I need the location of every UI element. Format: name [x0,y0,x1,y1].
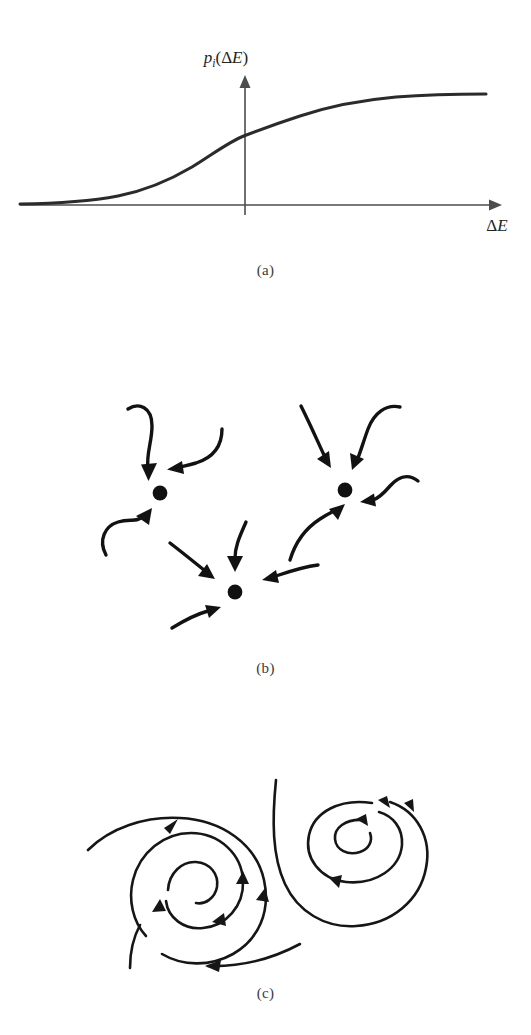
sigmoid-plot-svg: pi(ΔE) ΔE [0,30,531,280]
panel-b-caption: (b) [0,660,531,677]
flow-arrow-2c [360,477,418,507]
attractor-point-3 [228,585,243,600]
attractor-group-1 [103,406,222,555]
flow-arrow-1c [103,508,152,555]
y-axis [240,75,251,215]
panel-c-caption: (c) [0,985,531,1002]
flow-arrow-2b [350,406,400,470]
y-axis-arrowhead [240,75,251,88]
panel-c-spiral-attractors [0,740,531,990]
spiral-left-arrowhead-1 [164,819,178,834]
attractor-point-2 [338,483,353,498]
attractor-group-2 [290,406,418,560]
flow-arrow-2d [290,504,345,560]
y-axis-label-argument: (Δ [216,48,233,67]
y-axis-label-base: p [203,48,213,67]
spiral-right-arrowhead-4 [356,814,368,826]
spiral-right [274,780,428,926]
spiral-right-arrowhead-1 [378,796,390,808]
panel-b-point-attractors [0,380,531,680]
spiral-attractors-svg [0,740,531,990]
spiral-left-core-path [168,862,217,903]
spiral-left-mid-path [131,833,243,936]
spiral-left-outer-path [88,818,266,964]
flow-arrow-3d [172,605,221,628]
spiral-left [88,818,300,972]
flow-arrow-3b [170,543,215,579]
point-attractors-svg [0,380,531,680]
attractor-group-3 [170,522,318,628]
panel-a-sigmoid: pi(ΔE) ΔE [0,30,531,280]
x-axis-arrowhead [489,200,502,211]
flow-arrow-1a [128,406,157,481]
spiral-left-arrowhead-5 [152,899,166,912]
spiral-left-tail-path [208,944,300,966]
attractor-point-1 [153,486,168,501]
spiral-left-exit-path [130,925,140,968]
flow-arrow-1b [167,429,222,474]
y-axis-label: pi(ΔE) [203,48,248,69]
flow-arrow-3c [262,565,318,583]
flow-arrow-3a [227,522,246,572]
flow-arrow-2a [301,406,331,468]
spiral-left-arrowhead-2 [236,871,249,884]
spiral-right-core-path [335,820,371,853]
x-axis-label: ΔE [486,216,508,235]
sigmoid-curve [20,94,486,204]
figure-root: pi(ΔE) ΔE (a) [0,0,531,1035]
panel-a-caption: (a) [0,262,531,279]
spiral-right-mid-path [308,802,402,882]
